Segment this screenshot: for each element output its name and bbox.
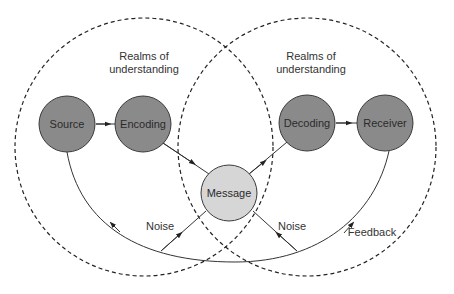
- feedback-label: Feedback: [348, 226, 397, 238]
- arrow-noise-left: [161, 234, 180, 251]
- receiver-realm-label-line1: Realms of: [286, 50, 336, 62]
- node-receiver: Receiver: [357, 95, 413, 151]
- node-encoding: Encoding: [115, 96, 171, 152]
- receiver-realm-label-line2: understanding: [276, 63, 346, 75]
- node-message: Message: [201, 165, 257, 221]
- sender-realm-label-line2: understanding: [109, 63, 179, 75]
- node-source-label: Source: [50, 118, 85, 130]
- communication-diagram: Realms of understanding Realms of unders…: [0, 0, 454, 294]
- node-receiver-label: Receiver: [363, 117, 407, 129]
- sender-realm-label-line1: Realms of: [119, 50, 169, 62]
- noise-left-label: Noise: [146, 220, 174, 232]
- node-decoding-label: Decoding: [284, 117, 330, 129]
- noise-right-label: Noise: [278, 220, 306, 232]
- node-decoding: Decoding: [279, 95, 335, 151]
- feedback-arrow-left: [112, 224, 120, 232]
- node-message-label: Message: [207, 187, 252, 199]
- arrow-noise-right: [278, 234, 297, 251]
- arrow-message-decoding: [249, 162, 264, 174]
- node-encoding-label: Encoding: [120, 118, 166, 130]
- node-source: Source: [39, 96, 95, 152]
